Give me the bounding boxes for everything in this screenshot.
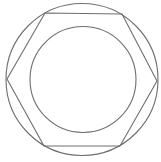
inner-circle <box>30 27 136 133</box>
hexagon-circle-diagram <box>0 0 161 162</box>
